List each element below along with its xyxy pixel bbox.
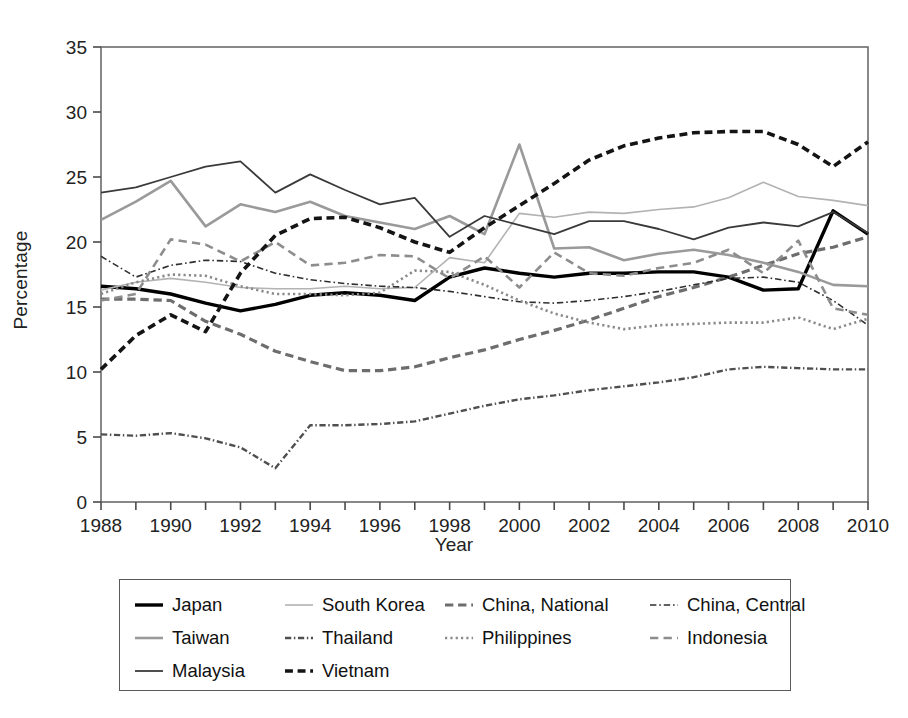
series-line-south-korea [101,182,868,290]
svg-text:35: 35 [66,37,87,58]
series-line-malaysia [101,161,868,239]
svg-text:2004: 2004 [638,515,681,536]
series-layer [101,132,868,469]
legend-swatch-indonesia-icon [649,631,679,645]
svg-text:15: 15 [66,297,87,318]
legend-label-malaysia: Malaysia [172,660,245,682]
svg-text:2008: 2008 [777,515,819,536]
svg-text:30: 30 [66,102,87,123]
svg-text:25: 25 [66,167,87,188]
line-chart-figure: 0510152025303519881990199219941996199820… [0,0,908,718]
legend-grid: JapanSouth KoreaChina, NationalChina, Ce… [134,588,780,687]
svg-text:1996: 1996 [359,515,401,536]
legend-swatch-japan-icon [134,598,164,612]
legend-label-south-korea: South Korea [322,594,425,616]
legend-item-indonesia[interactable]: Indonesia [649,627,809,649]
legend-item-malaysia[interactable]: Malaysia [134,660,284,682]
svg-text:2000: 2000 [498,515,540,536]
legend-swatch-philippines-icon [444,631,474,645]
svg-text:2010: 2010 [847,515,889,536]
legend-label-vietnam: Vietnam [322,660,390,682]
svg-text:1998: 1998 [428,515,470,536]
svg-text:10: 10 [66,362,87,383]
y-axis-title-text: Percentage [10,180,32,380]
legend-item-china-national[interactable]: China, National [444,594,649,616]
svg-text:0: 0 [76,492,87,513]
legend-label-china-central: China, Central [687,594,805,616]
svg-text:2006: 2006 [707,515,749,536]
legend-swatch-malaysia-icon [134,664,164,678]
legend-label-thailand: Thailand [322,627,393,649]
y-axis-title: Percentage [10,0,32,180]
legend-item-vietnam[interactable]: Vietnam [284,660,444,682]
legend-swatch-thailand-icon [284,631,314,645]
svg-text:20: 20 [66,232,87,253]
legend-item-taiwan[interactable]: Taiwan [134,627,284,649]
x-axis-title: Year [0,534,908,556]
legend-swatch-china-national-icon [444,598,474,612]
legend-label-indonesia: Indonesia [687,627,767,649]
svg-text:5: 5 [76,427,87,448]
legend-label-japan: Japan [172,594,222,616]
legend-item-philippines[interactable]: Philippines [444,627,649,649]
legend-item-thailand[interactable]: Thailand [284,627,444,649]
svg-text:1990: 1990 [150,515,192,536]
figure-root: 0510152025303519881990199219941996199820… [0,0,908,718]
chart-legend: JapanSouth KoreaChina, NationalChina, Ce… [119,579,791,691]
legend-swatch-south-korea-icon [284,598,314,612]
legend-item-japan[interactable]: Japan [134,594,284,616]
svg-text:1988: 1988 [80,515,122,536]
series-line-vietnam [101,132,868,370]
legend-item-china-central[interactable]: China, Central [649,594,809,616]
svg-text:1994: 1994 [289,515,332,536]
legend-label-philippines: Philippines [482,627,571,649]
series-line-philippines [101,271,868,330]
svg-text:1992: 1992 [219,515,261,536]
legend-label-taiwan: Taiwan [172,627,230,649]
legend-swatch-china-central-icon [649,598,679,612]
legend-swatch-taiwan-icon [134,631,164,645]
series-line-thailand [101,367,868,468]
axis-layer: 0510152025303519881990199219941996199820… [66,37,889,536]
legend-label-china-national: China, National [482,594,609,616]
svg-text:2002: 2002 [568,515,610,536]
legend-item-south-korea[interactable]: South Korea [284,594,444,616]
legend-swatch-vietnam-icon [284,664,314,678]
